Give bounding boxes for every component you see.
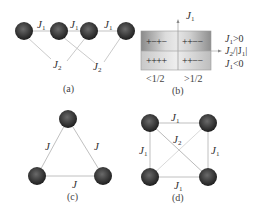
label-j1: J1 [70, 19, 78, 32]
label-j2-diagonal: J2 [173, 134, 181, 147]
label-j1: J1 [104, 19, 112, 32]
panel-c-triangle [28, 110, 112, 185]
spin-sphere [117, 22, 135, 40]
x-axis-arrowhead [218, 50, 222, 53]
nnn-bond [104, 37, 121, 62]
caption-c: (c) [67, 192, 78, 202]
spin-sphere [141, 168, 159, 186]
spin-sphere [15, 22, 33, 40]
spin-sphere [28, 167, 46, 185]
spin-sphere [59, 110, 77, 128]
nnn-bond [67, 37, 86, 61]
label-j1-right: J1 [211, 145, 219, 158]
x-tick-left: <1/2 [146, 74, 164, 84]
nnn-bond [63, 37, 95, 63]
cell-top-right: ++−− [182, 37, 203, 47]
caption-d: (d) [172, 193, 184, 203]
y-axis-label: J1 [186, 10, 194, 23]
caption-b: (b) [172, 86, 184, 96]
figure: J1 J1 J1 J2 J2 (a) J1 +−+− ++−− ++++ ++−… [0, 0, 258, 212]
x-axis-label: J2/|J1| [225, 46, 247, 58]
spin-sphere [80, 22, 98, 40]
nnn-bond [27, 37, 51, 59]
caption-a: (a) [63, 84, 74, 94]
spin-sphere [199, 168, 217, 186]
label-j-bottom: J [72, 179, 77, 190]
label-j1: J1 [37, 19, 45, 32]
spin-sphere [50, 22, 68, 40]
spin-sphere [141, 114, 159, 132]
label-j2: J2 [53, 59, 61, 72]
x-tick-right: >1/2 [184, 74, 202, 84]
label-j-right: J [94, 141, 99, 152]
spin-sphere [94, 167, 112, 185]
label-j-left: J [45, 141, 50, 152]
label-j1-left: J1 [139, 145, 147, 158]
label-j1-top: J1 [171, 112, 179, 125]
y-axis-arrowhead [177, 19, 180, 23]
label-j1-negative: J1<0 [225, 59, 244, 71]
cell-bottom-right: ++−− [182, 56, 203, 66]
spin-sphere [199, 114, 217, 132]
label-j2: J2 [93, 61, 101, 74]
cell-top-left: +−+− [146, 37, 167, 47]
cell-bottom-left: ++++ [146, 56, 167, 66]
